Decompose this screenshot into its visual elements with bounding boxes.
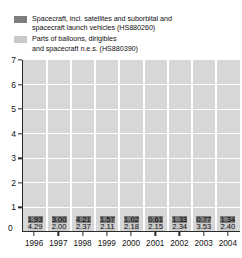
- plot-area: 1.934.293.002.004.212.371.572.111.022.18…: [22, 60, 240, 232]
- y-axis: 7 6 5 4 3 2 1: [0, 60, 22, 232]
- bar-segment-parts[interactable]: 3.53: [196, 223, 211, 231]
- x-tick-mark: [227, 232, 228, 236]
- x-tick-label: 2004: [216, 239, 240, 248]
- bar-segment-parts[interactable]: 2.37: [76, 223, 91, 231]
- stacked-bar[interactable]: 3.002.00: [52, 216, 67, 231]
- bar-value-label: 2.37: [76, 223, 91, 231]
- y-tick-label-2: 2: [11, 179, 16, 188]
- x-tick-1996: 1996: [22, 232, 46, 256]
- bar-slot: 1.934.29: [23, 60, 47, 231]
- x-tick-mark: [179, 232, 180, 236]
- bar-value-label: 2.34: [172, 223, 187, 231]
- stacked-bar[interactable]: 0.612.15: [148, 216, 163, 231]
- bar-slot: 0.773.53: [192, 60, 216, 231]
- stacked-bar[interactable]: 1.022.18: [124, 216, 139, 231]
- bar-slot: 1.022.18: [119, 60, 143, 231]
- bar-slot: 1.572.11: [95, 60, 119, 231]
- stacked-bar[interactable]: 4.212.37: [76, 216, 91, 231]
- x-tick-2002: 2002: [167, 232, 191, 256]
- bar-value-label: 2.11: [100, 223, 114, 231]
- stacked-bar[interactable]: 1.342.40: [220, 216, 235, 231]
- x-tick-label: 2000: [119, 239, 143, 248]
- x-tick-mark: [130, 232, 131, 236]
- stacked-bar[interactable]: 1.572.11: [100, 216, 115, 231]
- bar-value-label: 4.29: [28, 223, 43, 231]
- bar-chart: 7 6 5 4 3 2 1 0 1.934.293.002.004.212.37…: [0, 56, 242, 258]
- y-tick-label-4: 4: [11, 129, 16, 138]
- y-tick-label-0: 0: [8, 224, 13, 233]
- bar-segment-parts[interactable]: 2.11: [100, 223, 115, 231]
- legend-label-spacecraft: Spacecraft, incl. satellites and suborbi…: [32, 14, 172, 32]
- bar-slot: 1.332.34: [168, 60, 192, 231]
- y-tick-label-5: 5: [11, 105, 16, 114]
- bar-value-label: 3.53: [196, 223, 211, 231]
- legend-label-parts: Parts of balloons, dirigibles and spacec…: [32, 34, 138, 52]
- y-tick-label-6: 6: [11, 80, 16, 89]
- y-tick-label-7: 7: [11, 56, 16, 65]
- chart-legend: Spacecraft, incl. satellites and suborbi…: [14, 14, 238, 55]
- bar-slot: 3.002.00: [47, 60, 71, 231]
- legend-label-parts-line1: Parts of balloons, dirigibles: [32, 34, 138, 43]
- legend-label-spacecraft-line2: spacecraft launch vehicles (HS880260): [32, 23, 172, 32]
- x-tick-label: 2002: [167, 239, 191, 248]
- legend-entry-spacecraft: Spacecraft, incl. satellites and suborbi…: [14, 14, 238, 32]
- bar-segment-parts[interactable]: 2.00: [52, 223, 67, 231]
- stacked-bar[interactable]: 0.773.53: [196, 216, 211, 231]
- bar-segment-parts[interactable]: 2.34: [172, 223, 187, 231]
- bar-segment-parts[interactable]: 2.15: [148, 223, 163, 231]
- x-tick-2000: 2000: [119, 232, 143, 256]
- bar-value-label: 2.18: [124, 223, 139, 231]
- x-tick-2003: 2003: [192, 232, 216, 256]
- x-tick-mark: [155, 232, 156, 236]
- x-tick-label: 2003: [192, 239, 216, 248]
- bar-segment-parts[interactable]: 2.40: [220, 223, 235, 231]
- legend-swatch-light-icon: [14, 36, 27, 43]
- x-tick-1998: 1998: [70, 232, 94, 256]
- legend-label-spacecraft-line1: Spacecraft, incl. satellites and suborbi…: [32, 14, 172, 23]
- x-tick-label: 1999: [95, 239, 119, 248]
- x-tick-label: 1997: [46, 239, 70, 248]
- x-tick-1999: 1999: [95, 232, 119, 256]
- legend-entry-parts: Parts of balloons, dirigibles and spacec…: [14, 34, 238, 52]
- bar-value-label: 2.00: [52, 223, 67, 231]
- x-tick-label: 2001: [143, 239, 167, 248]
- legend-label-parts-line2: and spacecraft n.e.s. (HS880390): [32, 44, 138, 53]
- stacked-bar[interactable]: 1.934.29: [28, 216, 43, 231]
- x-tick-2001: 2001: [143, 232, 167, 256]
- x-tick-mark: [203, 232, 204, 236]
- x-tick-mark: [106, 232, 107, 236]
- x-tick-mark: [33, 232, 34, 236]
- x-axis: 199619971998199920002001200220032004: [22, 232, 240, 256]
- bar-group: 1.934.293.002.004.212.371.572.111.022.18…: [23, 60, 240, 231]
- plot-background: 1.934.293.002.004.212.371.572.111.022.18…: [22, 60, 240, 232]
- legend-swatch-dark-icon: [14, 16, 27, 23]
- stacked-bar[interactable]: 1.332.34: [172, 216, 187, 231]
- x-tick-label: 1998: [70, 239, 94, 248]
- bar-segment-parts[interactable]: 4.29: [28, 223, 43, 231]
- bar-slot: 0.612.15: [144, 60, 168, 231]
- y-tick-label-1: 1: [11, 203, 16, 212]
- x-tick-2004: 2004: [216, 232, 240, 256]
- x-tick-mark: [82, 232, 83, 236]
- bar-slot: 4.212.37: [71, 60, 95, 231]
- x-tick-label: 1996: [22, 239, 46, 248]
- bar-value-label: 2.15: [148, 223, 163, 231]
- bar-value-label: 2.40: [221, 223, 236, 231]
- bar-segment-parts[interactable]: 2.18: [124, 223, 139, 231]
- x-tick-1997: 1997: [46, 232, 70, 256]
- bar-slot: 1.342.40: [216, 60, 240, 231]
- x-tick-mark: [58, 232, 59, 236]
- y-tick-label-3: 3: [11, 154, 16, 163]
